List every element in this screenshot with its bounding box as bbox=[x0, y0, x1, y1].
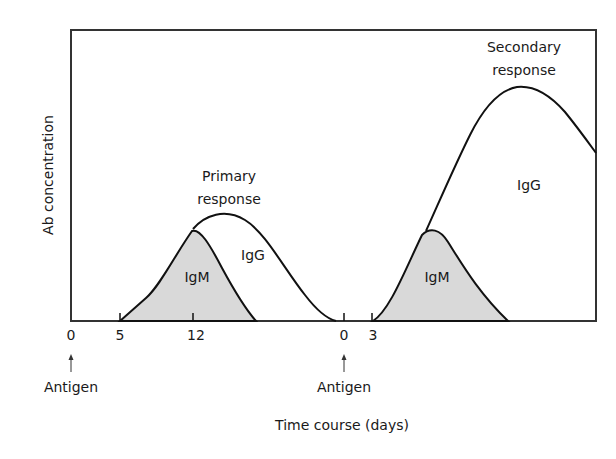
tick-label-0a: 0 bbox=[67, 327, 76, 343]
antigen-label-2: Antigen bbox=[317, 379, 371, 395]
y-axis-title: Ab concentration bbox=[40, 115, 56, 235]
antigen-arrow-1-icon bbox=[69, 354, 74, 372]
secondary-igg-curve bbox=[426, 87, 596, 231]
antigen-label-1: Antigen bbox=[44, 379, 98, 395]
tick-label-5: 5 bbox=[116, 327, 125, 343]
tick-label-3: 3 bbox=[369, 327, 378, 343]
antibody-response-chart: 0 5 12 0 3 Antigen Antigen Time course (… bbox=[0, 0, 616, 459]
primary-response-title-line2: response bbox=[197, 191, 261, 207]
tick-label-0b: 0 bbox=[340, 327, 349, 343]
secondary-response-title-line1: Secondary bbox=[487, 39, 561, 55]
primary-response-title-line1: Primary bbox=[202, 168, 256, 184]
secondary-response-title-line2: response bbox=[492, 62, 556, 78]
primary-igm-label: IgM bbox=[184, 269, 209, 285]
primary-igg-label: IgG bbox=[241, 247, 265, 263]
secondary-igg-label: IgG bbox=[517, 177, 541, 193]
antigen-arrow-2-icon bbox=[342, 354, 347, 372]
tick-label-12: 12 bbox=[187, 327, 205, 343]
x-axis-title: Time course (days) bbox=[274, 417, 409, 433]
secondary-igm-label: IgM bbox=[424, 269, 449, 285]
